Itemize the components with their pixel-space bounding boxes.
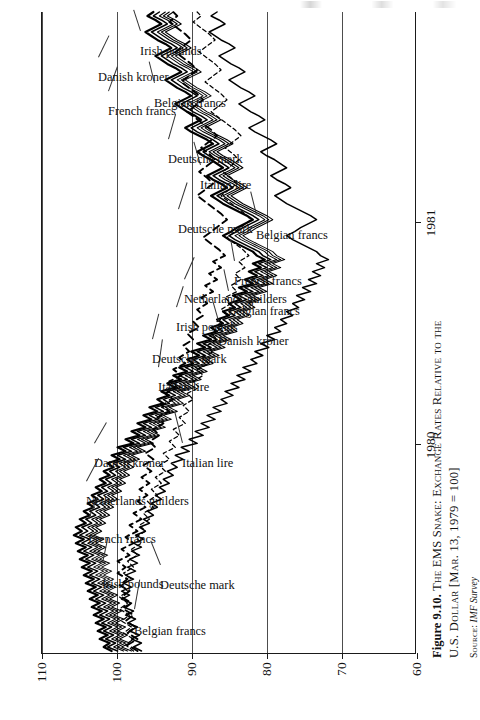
- tick-80: [267, 653, 268, 659]
- annotation-danish-kroner-left: Danish kroner: [94, 457, 165, 470]
- annotation-deutsche-mark-right-1: Deutsche mark: [178, 223, 253, 236]
- annotation-danish-kroner-mid: Danish kroner: [218, 335, 289, 348]
- tick-110: [42, 653, 43, 659]
- annotation-irish-pounds-right: Irish pounds: [140, 45, 202, 58]
- figure-source: Source: IMF Survey: [467, 58, 480, 658]
- y-axis-label-90: 90: [184, 662, 200, 676]
- annotation-french-francs-left: French francs: [88, 533, 156, 546]
- annotation-deutsche-mark-left: Deutsche mark: [160, 579, 235, 592]
- annotation-belgian-francs-right-2: Belgian francs: [154, 97, 226, 110]
- tick-100: [117, 653, 118, 659]
- figure-page: 110 100 90 80 70 60 1980 1981: [0, 0, 480, 720]
- source-label: Source:: [468, 625, 479, 658]
- annotation-belgian-francs-left: Belgian francs: [134, 625, 206, 638]
- tick-90: [192, 653, 193, 659]
- figure-number: Figure 9.10.: [430, 594, 444, 658]
- annotation-deutsche-mark-right-2: Deutsche mark: [168, 153, 243, 166]
- annotation-irish-pounds-left: Irish pounds: [102, 578, 164, 591]
- source-value: IMF Survey: [468, 577, 479, 623]
- rotated-figure-stage: 110 100 90 80 70 60 1980 1981: [0, 0, 480, 720]
- annotation-italian-lire-right: Italian lire: [200, 179, 251, 192]
- tick-1980: [415, 444, 421, 445]
- annotation-belgian-francs-right-1: Belgian francs: [256, 229, 328, 242]
- figure-caption: Figure 9.10. The EMS Snake: Exchange Rat…: [429, 58, 480, 658]
- y-axis-label-80: 80: [259, 662, 275, 676]
- figure-block: 110 100 90 80 70 60 1980 1981: [25, 10, 455, 710]
- y-axis-label-100: 100: [109, 662, 125, 683]
- plot-area: 110 100 90 80 70 60 1980 1981: [41, 12, 416, 654]
- figure-title-lead: The EMS Snake: Exchange Rates Relative t…: [430, 320, 444, 591]
- tick-70: [342, 653, 343, 659]
- tick-60: [417, 653, 418, 659]
- figure-title-rest: U.S. Dollar [Mar. 13, 1979 = 100]: [446, 58, 463, 658]
- annotation-netherlands-guilders-left: Netherlands guilders: [86, 495, 189, 508]
- annotation-deutsche-mark-mid: Deutsche mark: [152, 353, 227, 366]
- annotation-danish-kroner-right: Danish kroner: [98, 71, 169, 84]
- y-axis-label-60: 60: [409, 662, 425, 676]
- annotation-italian-lire-mid-left: Italian lire: [182, 457, 233, 470]
- y-axis-label-110: 110: [34, 662, 50, 682]
- annotation-irish-pounds-mid: Irish pounds: [176, 321, 238, 334]
- annotation-french-francs-mid: French francs: [234, 275, 302, 288]
- caption-line-1: Figure 9.10. The EMS Snake: Exchange Rat…: [429, 58, 446, 658]
- annotation-belgian-francs-mid: Belgian francs: [228, 305, 300, 318]
- tick-1981: [415, 222, 421, 223]
- y-axis-label-70: 70: [334, 662, 350, 676]
- annotation-italian-lire-mid: Italian lire: [158, 381, 209, 394]
